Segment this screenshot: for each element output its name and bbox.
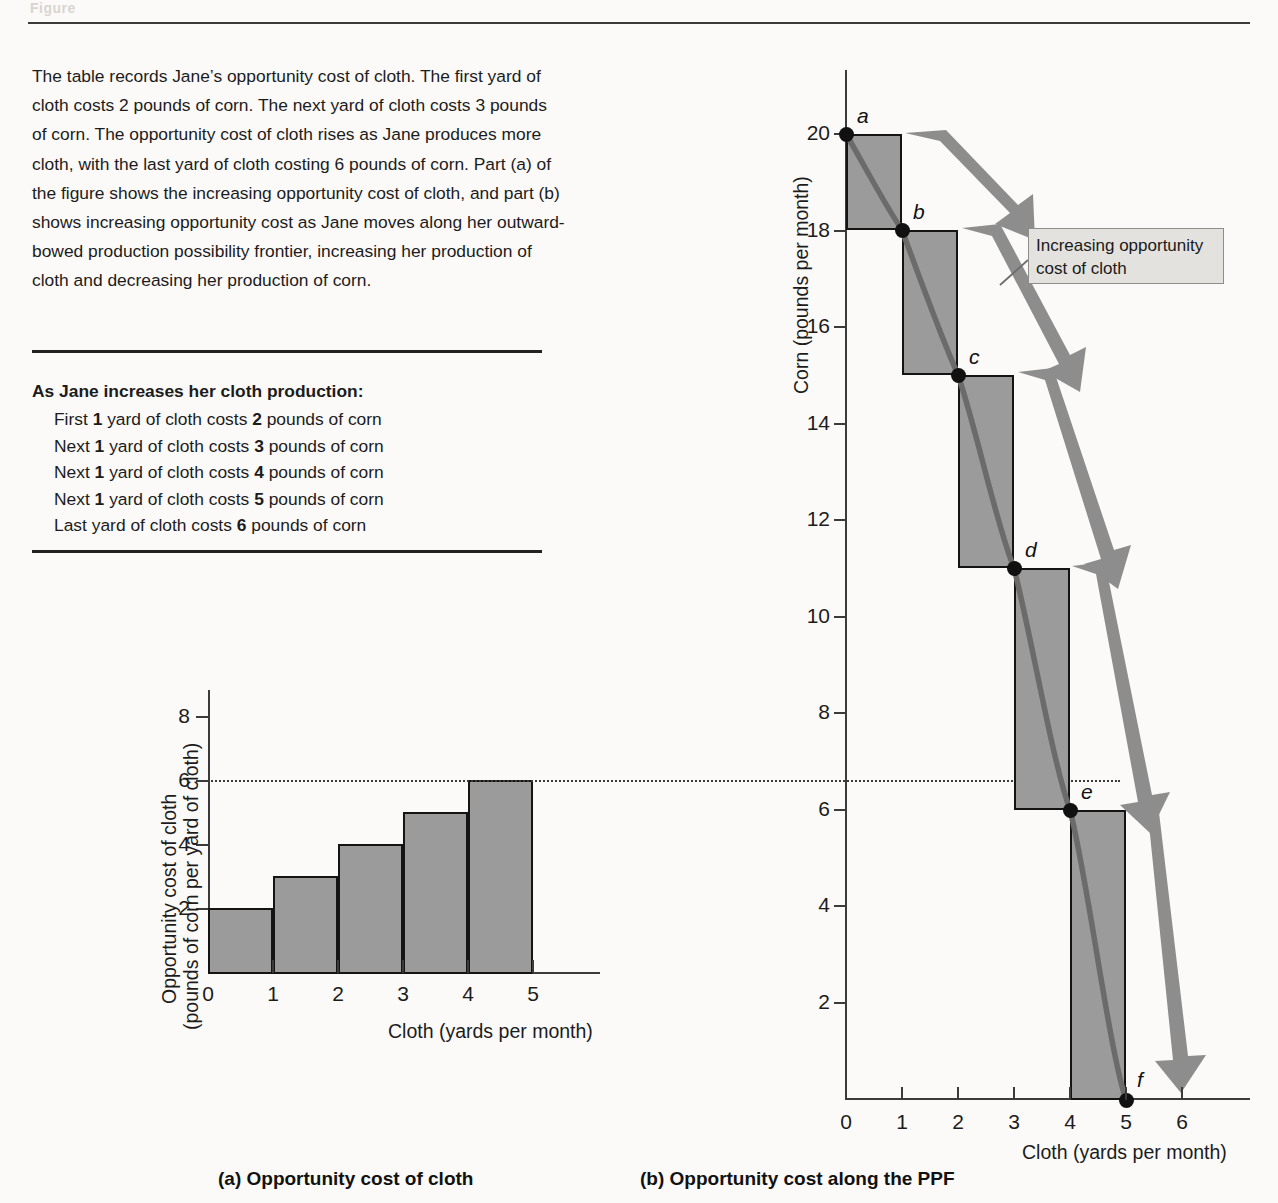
ppf-label-a: a xyxy=(857,104,869,128)
panel-b-xticklabel: 0 xyxy=(831,1110,861,1134)
panel-b-yticklabel: 14 xyxy=(788,411,830,435)
steprect-c-d xyxy=(958,375,1014,568)
steprect-d-e xyxy=(1014,568,1070,810)
panel-b-yticklabel: 8 xyxy=(788,700,830,724)
panel-a-xaxis-title: Cloth (yards per month) xyxy=(388,1020,593,1043)
panel-a-caption: (a) Opportunity cost of cloth xyxy=(218,1168,473,1190)
ppf-point-a xyxy=(839,127,854,142)
bar-3-4 xyxy=(403,812,468,974)
panel-b-ytick-4 xyxy=(834,905,847,907)
cost-list-heading: As Jane increases her cloth production: xyxy=(32,378,552,404)
dotted-reference-line-6 xyxy=(208,780,1120,782)
panel-b-yticklabel: 12 xyxy=(788,507,830,531)
panel-a-ytick-8 xyxy=(196,716,209,718)
panel-a-xticklabel: 5 xyxy=(518,982,548,1006)
bar-4-5 xyxy=(468,780,533,974)
panel-b-yaxis-title: Corn (pounds per month) xyxy=(790,176,813,394)
panel-b-caption: (b) Opportunity cost along the PPF xyxy=(640,1168,955,1190)
panel-a-yaxis-title-line2: (pounds of corn per yard of cloth) xyxy=(180,743,203,1030)
panel-a-yaxis-title-line1: Opportunity cost of cloth xyxy=(158,794,181,1004)
ppf-label-e: e xyxy=(1081,780,1093,804)
panel-b-ytick-18 xyxy=(834,230,847,232)
description-paragraph: The table records Jane’s opportunity cos… xyxy=(32,62,566,296)
panel-b-xticklabel: 4 xyxy=(1055,1110,1085,1134)
top-partial-header: Figure xyxy=(30,0,270,18)
panel-a-xtick-4 xyxy=(467,960,469,973)
ppf-point-e xyxy=(1063,803,1078,818)
ppf-point-c xyxy=(951,368,966,383)
panel-a-xtick-1 xyxy=(272,960,274,973)
panel-b-ytick-8 xyxy=(834,712,847,714)
panel-b-yticklabel: 4 xyxy=(788,893,830,917)
cost-list-item: Last yard of cloth costs 6 pounds of cor… xyxy=(32,512,552,538)
cost-list-item: First 1 yard of cloth costs 2 pounds of … xyxy=(32,406,552,432)
ppf-point-d xyxy=(1007,561,1022,576)
ppf-label-d: d xyxy=(1025,538,1037,562)
panel-b-yticklabel: 6 xyxy=(788,797,830,821)
cost-list: As Jane increases her cloth production: … xyxy=(32,378,552,538)
callout-line-2: cost of cloth xyxy=(1036,257,1216,280)
panel-b-yticklabel: 20 xyxy=(788,121,830,145)
panel-b-xticklabel: 5 xyxy=(1111,1110,1141,1134)
callout-line-1: Increasing opportunity xyxy=(1036,234,1216,257)
panel-b-yticklabel: 2 xyxy=(788,990,830,1014)
panel-b-ytick-16 xyxy=(834,326,847,328)
panel-b-xtick-6 xyxy=(1181,1087,1183,1100)
panel-a-xticklabel: 1 xyxy=(258,982,288,1006)
cost-list-item: Next 1 yard of cloth costs 3 pounds of c… xyxy=(32,433,552,459)
panel-a-xticklabel: 4 xyxy=(453,982,483,1006)
steprect-b-c xyxy=(902,230,958,375)
panel-a-xticklabel: 3 xyxy=(388,982,418,1006)
panel-b-ytick-6 xyxy=(834,809,847,811)
panel-b-xticklabel: 3 xyxy=(999,1110,1029,1134)
panel-b-x-axis xyxy=(845,1098,1250,1100)
panel-b-xtick-4 xyxy=(1069,1087,1071,1100)
panel-b-xtick-1 xyxy=(901,1087,903,1100)
bar-1-2 xyxy=(273,876,338,974)
increasing-cost-callout: Increasing opportunity cost of cloth xyxy=(1028,228,1224,284)
panel-b-ytick-14 xyxy=(834,423,847,425)
top-horizontal-rule xyxy=(28,22,1250,24)
panel-b-xticklabel: 1 xyxy=(887,1110,917,1134)
panel-b-xticklabel: 2 xyxy=(943,1110,973,1134)
figure-page: Figure The table records Jane’s opportun… xyxy=(0,0,1278,1203)
panel-b-yticklabel: 10 xyxy=(788,604,830,628)
panel-a-xticklabel: 2 xyxy=(323,982,353,1006)
ppf-label-c: c xyxy=(969,345,980,369)
panel-a-yticklabel: 8 xyxy=(160,704,190,728)
panel-b-xtick-2 xyxy=(957,1087,959,1100)
panel-b-xaxis-title: Cloth (yards per month) xyxy=(1022,1141,1227,1164)
ppf-label-f: f xyxy=(1137,1068,1143,1092)
panel-b-ytick-2 xyxy=(834,1002,847,1004)
panel-b-xtick-5 xyxy=(1125,1087,1127,1100)
steprect-e-f xyxy=(1070,810,1126,1100)
panel-a-xtick-2 xyxy=(337,960,339,973)
panel-a-xtick-3 xyxy=(402,960,404,973)
cost-list-item: Next 1 yard of cloth costs 5 pounds of c… xyxy=(32,486,552,512)
panel-b-ytick-12 xyxy=(834,519,847,521)
panel-b-xticklabel: 6 xyxy=(1167,1110,1197,1134)
panel-a-xtick-5 xyxy=(532,960,534,973)
bar-0-1 xyxy=(208,908,273,974)
divider-rule-upper xyxy=(32,350,542,353)
ppf-label-b: b xyxy=(913,200,925,224)
divider-rule-lower xyxy=(32,550,542,553)
panel-b-ytick-10 xyxy=(834,616,847,618)
cost-arrow-5 xyxy=(1128,804,1206,1093)
panel-b-xtick-3 xyxy=(1013,1087,1015,1100)
bar-2-3 xyxy=(338,844,403,974)
ppf-point-b xyxy=(895,223,910,238)
steprect-a-b xyxy=(846,134,902,230)
callout-leader-line xyxy=(1000,260,1028,285)
cost-list-item: Next 1 yard of cloth costs 4 pounds of c… xyxy=(32,459,552,485)
